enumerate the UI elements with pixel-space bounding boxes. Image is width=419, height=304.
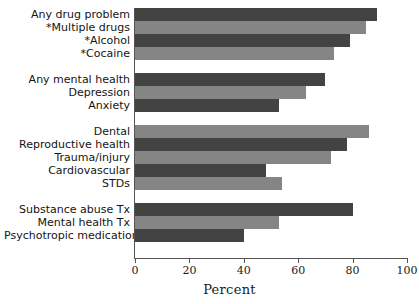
bar: [135, 34, 350, 47]
bar: [135, 216, 279, 229]
bar-category-label: Cardiovascular: [4, 164, 134, 177]
x-tick-0: [135, 259, 136, 263]
bar-category-label: Anxiety: [4, 99, 134, 112]
bar-category-label: STDs: [4, 177, 134, 190]
bar: [135, 138, 347, 151]
bar-category-label: Mental health Tx: [4, 216, 134, 229]
bar: [135, 164, 266, 177]
bar: [135, 125, 369, 138]
x-tick-60: [298, 259, 299, 263]
bar: [135, 99, 279, 112]
plot-area: [135, 8, 407, 258]
x-tick-label-100: 100: [397, 264, 418, 277]
bar-category-label: Any drug problem: [4, 8, 134, 21]
x-axis-title: Percent: [0, 282, 419, 297]
bar: [135, 73, 325, 86]
x-tick-100: [407, 259, 408, 263]
x-tick-label-40: 40: [237, 264, 251, 277]
bar: [135, 21, 366, 34]
bar: [135, 47, 334, 60]
bar: [135, 86, 306, 99]
bar-category-label: Reproductive health: [4, 138, 134, 151]
x-tick-20: [189, 259, 190, 263]
bar-category-label: *Alcohol: [4, 34, 134, 47]
x-tick-label-20: 20: [182, 264, 196, 277]
x-tick-label-60: 60: [291, 264, 305, 277]
x-axis-title-text: Percent: [203, 282, 256, 297]
bar-category-label: *Cocaine: [4, 47, 134, 60]
bar: [135, 151, 331, 164]
y-axis-line: [134, 8, 135, 258]
x-tick-label-80: 80: [346, 264, 360, 277]
bar-category-label: Trauma/injury: [4, 151, 134, 164]
bar-category-label: Dental: [4, 125, 134, 138]
bar: [135, 229, 244, 242]
x-tick-80: [353, 259, 354, 263]
bar-category-label: Substance abuse Tx: [4, 203, 134, 216]
bar: [135, 203, 353, 216]
bar-category-label: Psychotropic medications: [4, 229, 134, 242]
bar: [135, 177, 282, 190]
x-tick-40: [244, 259, 245, 263]
x-tick-label-0: 0: [132, 264, 139, 277]
bar-category-label: Any mental health: [4, 73, 134, 86]
bar-category-label: Depression: [4, 86, 134, 99]
x-axis-line: [134, 258, 408, 259]
category-label-column: Any drug problem*Multiple drugs*Alcohol*…: [0, 8, 134, 258]
bar-chart: Any drug problem*Multiple drugs*Alcohol*…: [0, 0, 419, 304]
bar: [135, 8, 377, 21]
bar-category-label: *Multiple drugs: [4, 21, 134, 34]
